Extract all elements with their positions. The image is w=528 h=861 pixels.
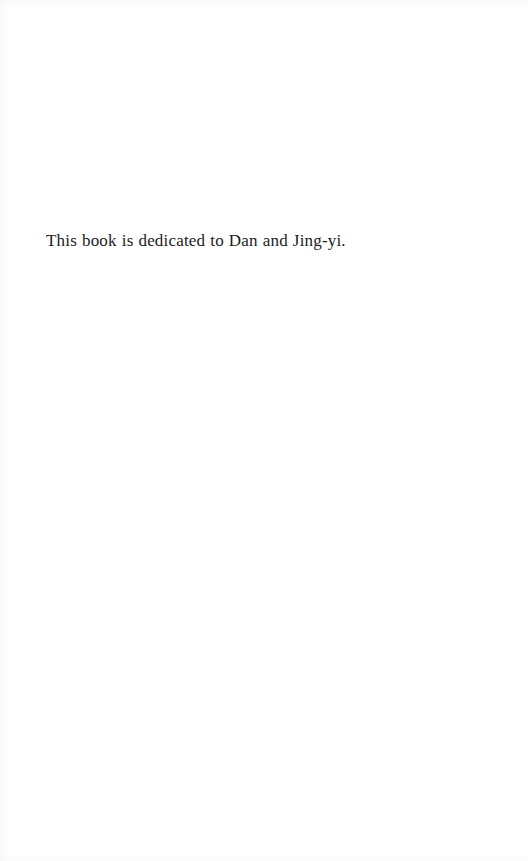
dedication-text: This book is dedicated to Dan and Jing-y…: [46, 231, 346, 251]
paper-grain-texture: [0, 0, 528, 861]
book-page: This book is dedicated to Dan and Jing-y…: [0, 0, 528, 861]
